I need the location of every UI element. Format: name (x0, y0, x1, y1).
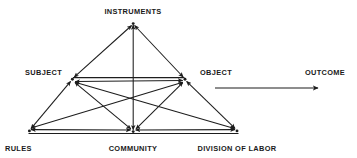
node-label-community: COMMUNITY (109, 145, 158, 152)
node-label-subject: SUBJECT (25, 69, 62, 76)
vertex-dot-community (132, 130, 135, 133)
vertex-dot-division-of-labor (236, 129, 239, 132)
activity-system-diagram: SUBJECT INSTRUMENTS OBJECT OUTCOME RULES… (0, 0, 357, 158)
node-label-instruments: INSTRUMENTS (104, 8, 161, 15)
node-label-object: OBJECT (200, 69, 232, 76)
edge-instruments-object (135, 26, 184, 78)
vertex-dot-instruments (132, 22, 135, 25)
edge-subject-object-arrowed (75, 80, 182, 81)
node-label-rules: RULES (5, 145, 32, 152)
vertex-dot-rules (28, 129, 31, 132)
subject-object-edges (73, 78, 185, 82)
edge-subject-division-of-labor (75, 82, 234, 128)
diagram-canvas (0, 0, 357, 158)
edge-subject-community (75, 83, 131, 129)
vertex-dot-subject (71, 78, 74, 81)
node-label-division-of-labor: DIVISION OF LABOR (197, 145, 276, 152)
node-label-outcome: OUTCOME (305, 69, 345, 76)
edge-instruments-subject (74, 26, 131, 78)
vertex-dot-object (184, 78, 187, 81)
